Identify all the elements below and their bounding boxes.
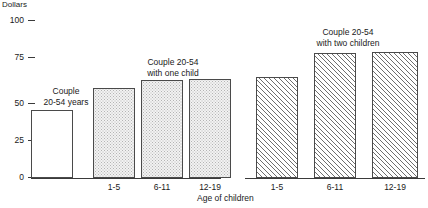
x-tick-label-one-child-12-19: 12-19 [190,183,230,192]
x-tick-label-one-child-6-11: 6-11 [142,183,182,192]
bar-one-child-1-5 [93,88,135,178]
x-axis-title: Age of children [197,194,254,203]
x-axis-line-left [31,178,221,179]
x-tick-label-two-children-12-19: 12-19 [374,183,416,192]
group-label-line1: Couple 20-54 [127,57,219,68]
group-label-line2: with two children [296,38,400,49]
y-tick-label-50: 50 [2,99,24,108]
group-label-two-children: Couple 20-54 with two children [296,27,400,48]
y-tick-label-25: 25 [2,136,24,145]
x-axis-line-right [245,178,425,179]
y-tick-mark-100 [28,20,35,21]
bar-couple-20-54-years [31,110,73,178]
x-tick-label-one-child-1-5: 1-5 [94,183,134,192]
group-label-line1: Couple 20-54 [296,27,400,38]
group-label-one-child: Couple 20-54 with one child [127,57,219,78]
y-tick-label-75: 75 [2,53,24,62]
group-label-line2: with one child [127,68,219,79]
bar-one-child-12-19 [189,79,231,178]
x-tick-label-two-children-1-5: 1-5 [257,183,297,192]
bar-chart: Dollars 100 75 50 25 0 Couple 20-54 year… [0,0,428,208]
y-tick-mark-75 [28,57,35,58]
bar-two-children-6-11 [314,53,356,178]
y-tick-label-100: 100 [2,16,24,25]
bar-two-children-12-19 [372,52,418,178]
bar-two-children-1-5 [256,77,298,178]
y-axis-title: Dollars [2,1,27,9]
x-tick-label-two-children-6-11: 6-11 [315,183,355,192]
bar-one-child-6-11 [141,80,183,178]
y-tick-label-0: 0 [2,173,24,182]
